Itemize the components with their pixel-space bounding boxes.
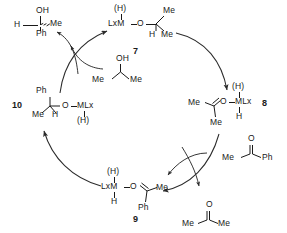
ten-ph-label: Ph [36, 86, 47, 95]
product-oh-label: OH [36, 6, 49, 15]
nine-me-label: Me [156, 183, 168, 192]
ten-metal-label: MLx [77, 101, 93, 110]
eight-h-label: H [236, 112, 242, 121]
acetophenone-ph-label: Ph [262, 153, 273, 162]
acetone-me-right-label: Me [218, 219, 230, 228]
product-me-label: Me [50, 19, 62, 28]
nine-hydride-label: (H) [107, 167, 119, 176]
species-label-8: 8 [262, 98, 267, 108]
bond-h-c [23, 25, 38, 26]
eight-me-left-label: Me [188, 98, 200, 107]
seven-oxygen-label: O [137, 19, 144, 28]
isopropanol-me-left-label: Me [92, 75, 104, 84]
ten-oxygen-label: O [62, 101, 69, 110]
structure-seven: (H) LxM O Me H Me [105, 4, 185, 44]
seven-hydride-label: (H) [114, 4, 126, 13]
nine-h-label: H [111, 197, 117, 206]
acetophenone-me-label: Me [222, 153, 234, 162]
reaction-scheme-canvas: OH H Me Ph (H) LxM [0, 0, 287, 233]
species-label-10: 10 [12, 100, 22, 110]
structure-ten: Ph Me H O MLx (H) [32, 86, 124, 132]
structure-acetone: O Me Me [182, 200, 238, 228]
seven-metal-label: LxM [108, 19, 124, 28]
structure-isopropanol: OH Me Me [92, 54, 152, 82]
eight-metal-label: MLx [235, 97, 251, 106]
seven-me-bottom-label: Me [161, 30, 173, 39]
seven-h-label: H [149, 30, 155, 39]
ten-me-label: Me [32, 110, 44, 119]
structure-nine: (H) LxM O H Me Ph [98, 167, 178, 215]
nine-ph-label: Ph [138, 203, 149, 212]
isopropanol-me-right-label: Me [130, 75, 142, 84]
structure-acetophenone: O Me Ph [222, 134, 282, 162]
isopropanol-oh-label: OH [116, 54, 129, 63]
seven-me-top-label: Me [163, 6, 175, 15]
eight-me-bottom-label: Me [210, 118, 222, 127]
nine-metal-label: LxM [101, 182, 117, 191]
arrow-acetone-out [182, 147, 199, 186]
acetone-me-left-label: Me [182, 219, 194, 228]
product-h-label: H [14, 20, 20, 29]
species-label-9: 9 [133, 214, 138, 224]
acetophenone-o-label: O [248, 134, 255, 143]
acetone-o-label: O [206, 200, 213, 209]
ten-hydride-label: (H) [77, 116, 89, 125]
eight-hydride-label: (H) [232, 82, 244, 91]
ten-h-label: H [52, 110, 58, 119]
product-ph-label: Ph [36, 29, 47, 38]
structure-eight: (H) O MLx H Me Me [188, 82, 266, 130]
structure-product-alcohol: OH H Me Ph [14, 6, 78, 40]
arrow-nine-to-ten [44, 131, 101, 186]
